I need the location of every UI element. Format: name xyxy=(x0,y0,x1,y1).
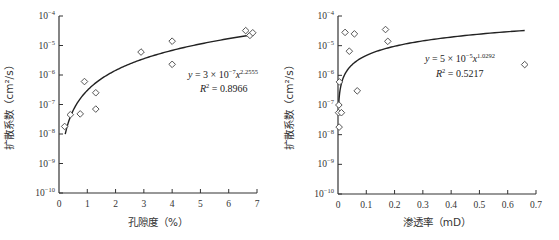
y-tick-label: 10−4 xyxy=(39,9,56,21)
r-squared-label: R2 = 0.5217 xyxy=(435,67,484,79)
power-fit-curve xyxy=(339,30,525,107)
data-point-diamond xyxy=(342,29,349,36)
x-tick-label: 0.3 xyxy=(417,200,429,210)
data-point-diamond xyxy=(336,124,343,131)
x-tick-label: 6 xyxy=(226,199,231,209)
data-point-diamond xyxy=(77,111,84,118)
permeability-diffusion-chart: 10−1010−910−810−710−610−510−400.10.20.30… xyxy=(283,9,542,228)
data-point-diamond xyxy=(336,102,343,109)
x-tick-label: 5 xyxy=(198,199,203,209)
x-tick-label: 7 xyxy=(255,199,260,209)
x-tick-label: 3 xyxy=(141,199,146,209)
data-point-diamond xyxy=(92,106,99,113)
x-tick-label: 0.5 xyxy=(473,200,485,210)
x-tick-label: 0.4 xyxy=(445,200,457,210)
data-point-diamond xyxy=(92,89,99,96)
y-tick-label: 10−6 xyxy=(318,68,335,80)
x-axis-title: 孔隙度（%） xyxy=(128,216,188,228)
y-axis-title: 扩散系数（cm²/s） xyxy=(3,60,15,149)
x-tick-label: 0 xyxy=(336,200,341,210)
y-tick-label: 10−6 xyxy=(39,68,56,80)
x-tick-label: 4 xyxy=(170,199,175,209)
data-point-diamond xyxy=(354,88,361,95)
x-tick-label: 0 xyxy=(57,199,62,209)
data-point-diamond xyxy=(346,48,353,55)
data-point-diamond xyxy=(169,38,176,45)
y-tick-label: 10−5 xyxy=(318,39,334,51)
x-tick-label: 0.6 xyxy=(502,200,514,210)
x-tick-label: 2 xyxy=(113,199,118,209)
data-point-diamond xyxy=(384,38,391,45)
r-squared-label: R2 = 0.8966 xyxy=(199,82,248,94)
x-tick-label: 0.1 xyxy=(360,200,372,210)
fit-equation: y = 5 × 10−5x1.0292 xyxy=(424,52,495,64)
data-point-diamond xyxy=(242,27,249,34)
data-point-diamond xyxy=(521,61,528,68)
x-axis-title: 渗透率（mD） xyxy=(403,216,471,228)
fit-equation: y = 3 × 10−7x2.2555 xyxy=(187,68,258,80)
y-tick-label: 10−4 xyxy=(318,9,335,21)
y-tick-label: 10−9 xyxy=(318,157,334,169)
y-tick-label: 10−9 xyxy=(39,157,55,169)
data-point-diamond xyxy=(351,31,358,38)
data-point-diamond xyxy=(169,61,176,68)
y-tick-label: 10−10 xyxy=(314,187,334,199)
data-point-diamond xyxy=(382,26,389,33)
x-tick-label: 0.7 xyxy=(530,200,542,210)
y-tick-label: 10−10 xyxy=(35,186,55,198)
x-tick-label: 0.2 xyxy=(389,200,401,210)
data-point-diamond xyxy=(81,78,88,85)
y-axis-title: 扩散系数（cm²/s） xyxy=(283,60,295,149)
y-tick-label: 10−5 xyxy=(39,39,55,51)
porosity-diffusion-chart: 10−1010−910−810−710−610−510−401234567y =… xyxy=(3,9,260,228)
y-tick-label: 10−8 xyxy=(39,127,55,139)
chart-canvas: 10−1010−910−810−710−610−510−401234567y =… xyxy=(0,0,559,240)
data-point-diamond xyxy=(138,49,145,56)
y-tick-label: 10−7 xyxy=(318,98,335,110)
y-tick-label: 10−7 xyxy=(39,98,56,110)
y-tick-label: 10−8 xyxy=(318,128,334,140)
x-tick-label: 1 xyxy=(85,199,90,209)
